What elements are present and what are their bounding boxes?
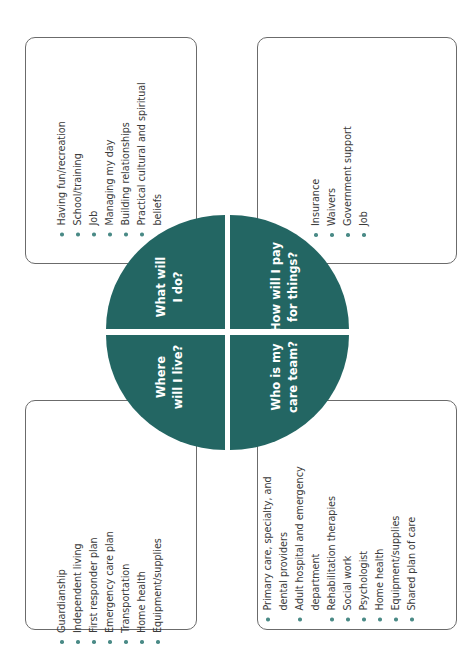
list-item: Waivers bbox=[324, 78, 340, 238]
planning-circle: What will I do? How will I pay for thing… bbox=[106, 215, 349, 450]
list-item: Emergency care plan bbox=[102, 475, 118, 645]
bullet-icon bbox=[76, 641, 80, 645]
list-item: Job bbox=[356, 78, 372, 238]
list-item: Home health bbox=[134, 475, 150, 645]
list-item-continuation: beliefs bbox=[150, 33, 166, 238]
quadrant-what-will-i-do: What will I do? bbox=[106, 215, 225, 329]
bullet-icon bbox=[378, 618, 382, 622]
list-item: Having fun/recreation bbox=[54, 33, 70, 238]
bullet-icon bbox=[330, 618, 334, 622]
quadrant-label: What will I do? bbox=[153, 257, 187, 318]
list-item: First responder plan bbox=[86, 475, 102, 645]
list-item: Building relationships bbox=[118, 33, 134, 238]
bullet-icon bbox=[298, 618, 302, 622]
bullet-icon bbox=[346, 618, 350, 622]
bullet-icon bbox=[266, 618, 270, 622]
quadrant-label: Who is my care team? bbox=[268, 341, 302, 413]
bullet-icon bbox=[362, 618, 366, 622]
list-item: Independent living bbox=[70, 475, 86, 645]
quadrant-label: How will I pay for things? bbox=[268, 242, 302, 329]
list-item: Equipment/supplies bbox=[388, 408, 404, 623]
list-item: Equipment/supplies bbox=[150, 475, 166, 645]
list-item: Psychologist bbox=[356, 408, 372, 623]
bullet-icon bbox=[140, 641, 144, 645]
list-item: Managing my day bbox=[102, 33, 118, 238]
bullet-icon bbox=[92, 233, 96, 237]
how-will-i-pay-list: Insurance Waivers Government support Job bbox=[308, 78, 372, 238]
bullet-icon bbox=[362, 234, 366, 238]
bullet-icon bbox=[108, 641, 112, 645]
bullet-icon bbox=[410, 618, 414, 622]
bullet-icon bbox=[76, 233, 80, 237]
bullet-icon bbox=[92, 641, 96, 645]
list-item: School/training bbox=[70, 33, 86, 238]
what-will-i-do-list: Having fun/recreation School/training Jo… bbox=[54, 33, 166, 238]
bullet-icon bbox=[60, 641, 64, 645]
quadrant-where-will-i-live: Where will I live? bbox=[106, 335, 225, 450]
list-item: Practical cultural and spiritual bbox=[134, 33, 150, 238]
list-item: Guardianship bbox=[54, 475, 70, 645]
quadrant-who-is-my-care-team: Who is my care team? bbox=[230, 335, 349, 450]
bullet-icon bbox=[394, 618, 398, 622]
bullet-icon bbox=[60, 233, 64, 237]
quadrant-how-will-i-pay: How will I pay for things? bbox=[230, 215, 349, 329]
list-item: Home health bbox=[372, 408, 388, 623]
list-item: Insurance bbox=[308, 78, 324, 238]
list-item: Shared plan of care bbox=[404, 408, 420, 623]
where-will-i-live-list: Guardianship Independent living First re… bbox=[54, 475, 166, 645]
quadrant-label: Where will I live? bbox=[153, 345, 187, 410]
list-item: Transportation bbox=[118, 475, 134, 645]
list-item: Government support bbox=[340, 78, 356, 238]
list-item: Job bbox=[86, 33, 102, 238]
bullet-icon bbox=[156, 641, 160, 645]
bullet-icon bbox=[124, 641, 128, 645]
